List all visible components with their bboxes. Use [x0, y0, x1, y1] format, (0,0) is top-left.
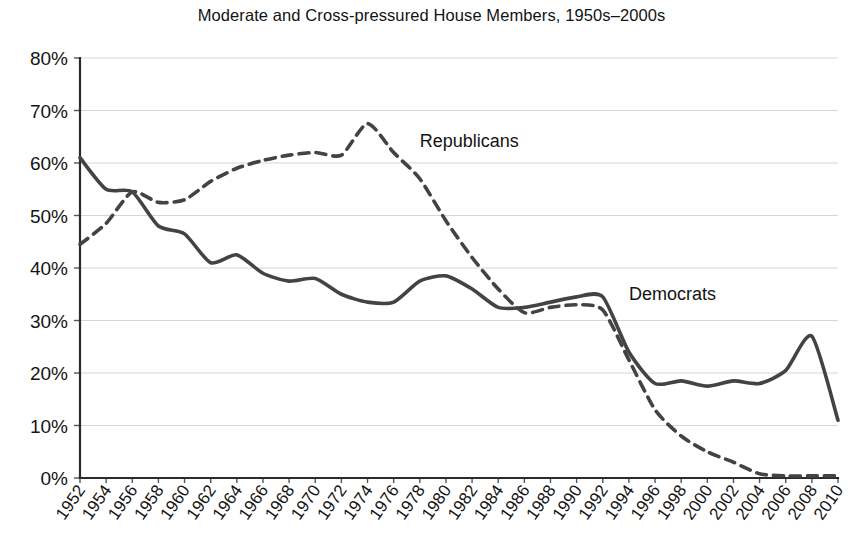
series-label-democrats: Democrats	[629, 284, 716, 304]
data-series	[80, 124, 838, 476]
y-tick-label: 60%	[30, 153, 68, 174]
line-chart-plot: 0%10%20%30%40%50%60%70%80% 1952195419561…	[0, 0, 863, 552]
y-tick-label: 0%	[41, 468, 69, 489]
y-tick-label: 80%	[30, 48, 68, 69]
x-tick-label: 2010	[810, 481, 847, 523]
chart-figure: Moderate and Cross-pressured House Membe…	[0, 0, 863, 552]
y-tick-label: 40%	[30, 258, 68, 279]
series-line-democrats	[80, 158, 838, 421]
series-line-republicans	[80, 124, 838, 476]
x-axis-tick-labels: 1952195419561958196019621964196619681970…	[52, 481, 847, 523]
y-tick-label: 10%	[30, 416, 68, 437]
series-annotations: RepublicansDemocrats	[420, 131, 716, 303]
y-tick-label: 30%	[30, 311, 68, 332]
y-tick-label: 50%	[30, 206, 68, 227]
series-label-republicans: Republicans	[420, 131, 519, 151]
axis-ticks	[74, 58, 838, 483]
y-axis-tick-labels: 0%10%20%30%40%50%60%70%80%	[30, 48, 68, 489]
y-tick-label: 70%	[30, 101, 68, 122]
y-tick-label: 20%	[30, 363, 68, 384]
